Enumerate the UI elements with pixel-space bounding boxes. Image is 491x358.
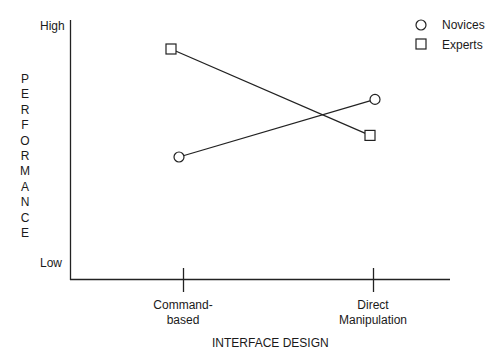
series-layer bbox=[166, 44, 380, 162]
square-marker-icon bbox=[416, 39, 426, 49]
circle-marker-icon bbox=[370, 94, 380, 104]
y-tick-low: Low bbox=[40, 256, 62, 270]
x-tick-label-line2: based bbox=[123, 313, 243, 328]
legend-label-experts: Experts bbox=[442, 38, 483, 52]
x-tick-label-command-based: Command- based bbox=[123, 298, 243, 328]
y-axis-title-letter: E bbox=[21, 226, 29, 241]
interaction-chart: High Low PERFORMANCE Command- based Dire… bbox=[0, 0, 491, 358]
series-line-experts bbox=[171, 49, 370, 135]
x-tick-label-line1: Command- bbox=[123, 298, 243, 313]
x-tick-label-direct-manipulation: Direct Manipulation bbox=[313, 298, 433, 328]
y-axis-title: PERFORMANCE bbox=[18, 72, 32, 241]
y-axis-title-letter: A bbox=[21, 180, 29, 195]
circle-marker-icon bbox=[174, 152, 184, 162]
square-marker-icon bbox=[365, 130, 375, 140]
x-tick-label-line2: Manipulation bbox=[313, 313, 433, 328]
y-axis-title-letter: N bbox=[21, 195, 30, 210]
y-axis-title-letter: O bbox=[20, 134, 29, 149]
x-tick-label-line1: Direct bbox=[313, 298, 433, 313]
y-axis-title-letter: R bbox=[21, 103, 30, 118]
square-marker-icon bbox=[166, 44, 176, 54]
y-tick-high: High bbox=[40, 19, 65, 33]
y-axis-title-letter: C bbox=[21, 211, 30, 226]
legend-label-novices: Novices bbox=[442, 18, 485, 32]
series-line-novices bbox=[179, 99, 375, 157]
y-axis-title-letter: E bbox=[21, 87, 29, 102]
circle-marker-icon bbox=[416, 20, 426, 30]
y-axis-title-letter: P bbox=[21, 72, 29, 87]
y-axis-title-letter: F bbox=[21, 118, 28, 133]
y-axis-title-letter: R bbox=[21, 149, 30, 164]
x-axis-title: INTERFACE DESIGN bbox=[212, 336, 329, 350]
y-axis-title-letter: M bbox=[20, 164, 30, 179]
